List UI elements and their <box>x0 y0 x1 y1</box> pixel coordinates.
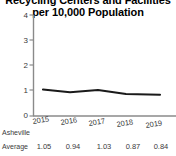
chart-figure: Recycling Centers and Facilities per 10,… <box>0 0 176 156</box>
x-tick-label-2016: 2016 <box>60 116 78 127</box>
table-cell-2018: 0.87 <box>120 143 146 151</box>
table-cell-2015: 1.05 <box>31 143 57 151</box>
plot-area: 4 3 2 1 0 2015 2016 2017 2018 2019 <box>0 14 176 120</box>
x-tick-label-2015: 2015 <box>32 115 50 126</box>
plot-svg <box>0 14 176 120</box>
table-cell-2017: 1.03 <box>91 143 117 151</box>
table-cell-2019: 0.84 <box>148 143 174 151</box>
data-line-asheville-average <box>43 90 160 95</box>
table-row-label-line-1: Asheville <box>2 129 30 137</box>
table-row-label-line-2: Average <box>2 143 28 151</box>
x-tick-label-2017: 2017 <box>88 117 106 128</box>
table-cell-2016: 0.94 <box>60 143 86 151</box>
data-table: Asheville Average 1.05 0.94 1.03 0.87 0.… <box>0 128 176 156</box>
